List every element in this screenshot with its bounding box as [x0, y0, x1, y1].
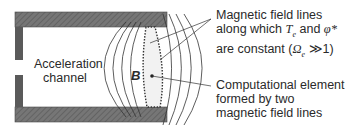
annotation-line3: are constant (Ωe ≫1): [216, 42, 337, 62]
channel-label: Acceleration channel: [34, 57, 96, 85]
left-wall-lower: [15, 75, 23, 107]
channel-label-line1: Acceleration: [34, 57, 96, 71]
element-annotation-line1: Computational element: [216, 78, 345, 92]
annotation-line1: Magnetic field lines: [216, 8, 337, 22]
omega-symbol: Ωe: [292, 42, 305, 56]
channel-label-line2: channel: [34, 71, 96, 85]
field-symbol-b: B: [131, 69, 140, 83]
field-line: [184, 14, 202, 125]
te-symbol: Te: [286, 22, 297, 36]
element-annotation-line2: formed by two: [216, 92, 345, 106]
leader-line-2: [160, 19, 211, 60]
field-line: [169, 14, 181, 125]
phi-star-symbol: φ*: [324, 22, 337, 36]
field-line: [176, 14, 191, 125]
field-line: [104, 22, 126, 117]
field-lines-annotation: Magnetic field lines along which Te and …: [216, 8, 337, 61]
left-wall-upper: [15, 27, 23, 60]
bottom-wall: [15, 107, 167, 122]
element-annotation-line3: magnetic field lines: [216, 106, 345, 120]
top-wall: [15, 12, 167, 27]
annotation-line2: along which Te and φ*: [216, 22, 337, 42]
element-annotation: Computational element formed by two magn…: [216, 78, 345, 120]
